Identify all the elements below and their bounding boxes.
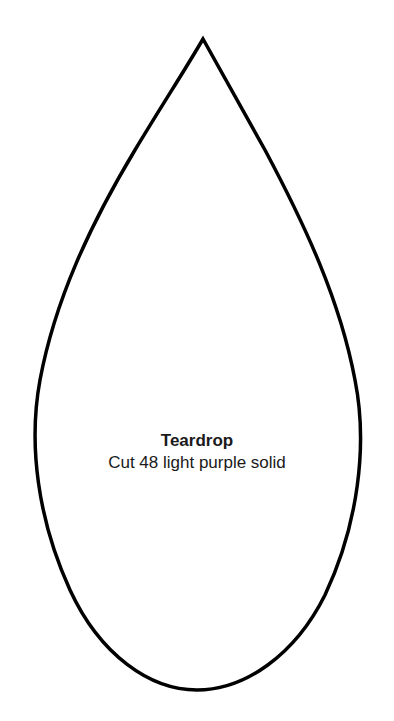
teardrop-outline xyxy=(0,0,394,721)
cut-instruction: Cut 48 light purple solid xyxy=(0,453,394,473)
shape-title: Teardrop xyxy=(0,431,394,451)
